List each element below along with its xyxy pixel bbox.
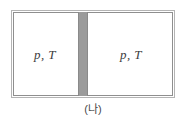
figure-diagram: p, T p, T (나) [0, 0, 186, 127]
partition-wall [78, 12, 88, 96]
chamber-left: p, T [12, 12, 78, 96]
figure-caption: (나) [0, 102, 186, 116]
chamber-right: p, T [88, 12, 174, 96]
chamber-right-label: p, T [120, 48, 142, 61]
chamber-left-label: p, T [34, 48, 56, 61]
